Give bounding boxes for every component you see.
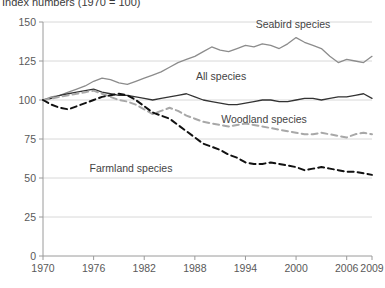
series-line-woodland-species [43, 91, 372, 138]
x-tick-label: 2000 [284, 262, 308, 274]
chart-svg: 0255075100125150 19701976198219881994200… [0, 0, 385, 288]
y-tick-label: 0 [30, 250, 36, 262]
x-tick-label: 1976 [82, 262, 106, 274]
series-labels-group: Seabird speciesAll speciesWoodland speci… [90, 18, 331, 174]
x-tick-label: 2009 [360, 262, 384, 274]
x-tick-label: 1970 [31, 262, 55, 274]
x-axis-ticks: 19701976198219881994200020062009 [31, 256, 384, 274]
series-label-seabird: Seabird species [256, 18, 331, 30]
y-tick-label: 100 [18, 94, 36, 106]
y-tick-label: 125 [18, 55, 36, 67]
series-label-farmland: Farmland species [90, 162, 173, 174]
y-tick-label: 25 [24, 211, 36, 223]
x-tick-label: 1982 [133, 262, 157, 274]
series-label-all: All species [196, 70, 246, 82]
chart-container: Index numbers (1970 = 100) 0255075100125… [0, 0, 385, 288]
gridlines [43, 22, 372, 217]
y-tick-label: 150 [18, 16, 36, 28]
y-tick-label: 50 [24, 172, 36, 184]
series-label-woodland: Woodland species [221, 113, 307, 125]
y-axis-ticks: 0255075100125150 [18, 16, 43, 262]
x-tick-label: 2006 [335, 262, 359, 274]
y-tick-label: 75 [24, 133, 36, 145]
x-tick-label: 1994 [234, 262, 258, 274]
data-series-group [43, 38, 372, 175]
x-tick-label: 1988 [183, 262, 207, 274]
